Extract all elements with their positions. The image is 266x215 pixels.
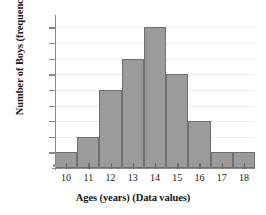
- y-axis-tick: [49, 59, 55, 60]
- x-axis-tick: [199, 163, 200, 169]
- x-axis-tick: [177, 163, 178, 169]
- x-axis-tick-label: 13: [122, 172, 144, 183]
- y-axis-line: [55, 15, 56, 170]
- x-axis-title: Ages (years) (Data values): [0, 192, 266, 204]
- histogram-bar: [99, 90, 121, 168]
- x-axis-tick: [133, 163, 134, 169]
- x-axis-tick-label: 17: [211, 172, 233, 183]
- x-axis-tick-label: 11: [77, 172, 99, 183]
- y-axis-tick: [49, 43, 55, 44]
- plot-area: [55, 18, 255, 168]
- y-axis-tick: [49, 74, 55, 75]
- x-axis-tick: [66, 163, 67, 169]
- x-axis-line: [52, 168, 255, 169]
- x-axis-tick-label: 16: [188, 172, 210, 183]
- y-axis-title: Number of Boys (frequency): [10, 0, 30, 133]
- histogram-bar: [188, 121, 210, 168]
- y-axis-tick: [49, 106, 55, 107]
- x-axis-tick-label: 18: [233, 172, 255, 183]
- y-axis-tick: [49, 27, 55, 28]
- y-axis-tick: [49, 121, 55, 122]
- y-axis-tick: [49, 152, 55, 153]
- x-axis-tick: [155, 163, 156, 169]
- y-axis-tick: [49, 137, 55, 138]
- x-axis-tick-label: 15: [166, 172, 188, 183]
- histogram-bar: [166, 74, 188, 168]
- histogram-bar: [144, 27, 166, 168]
- x-axis-tick: [244, 163, 245, 169]
- x-axis-tick-label: 12: [100, 172, 122, 183]
- x-axis-tick: [88, 163, 89, 169]
- x-axis-tick: [111, 163, 112, 169]
- x-axis-tick: [222, 163, 223, 169]
- histogram-figure: Number of Boys (frequency) 123456789 101…: [0, 0, 266, 215]
- histogram-bar: [122, 59, 144, 168]
- origin-marker: [53, 164, 56, 167]
- x-axis-tick-label: 14: [144, 172, 166, 183]
- y-axis-tick: [49, 90, 55, 91]
- x-axis-tick-label: 10: [55, 172, 77, 183]
